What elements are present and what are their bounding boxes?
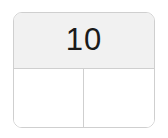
whole-value: 10 bbox=[66, 24, 102, 55]
whole-cell[interactable]: 10 bbox=[14, 13, 154, 69]
part-cell-right[interactable] bbox=[84, 69, 154, 127]
part-whole-box: 10 bbox=[13, 12, 155, 128]
canvas: 10 bbox=[0, 0, 168, 138]
part-cell-left[interactable] bbox=[14, 69, 84, 127]
parts-row bbox=[14, 69, 154, 127]
